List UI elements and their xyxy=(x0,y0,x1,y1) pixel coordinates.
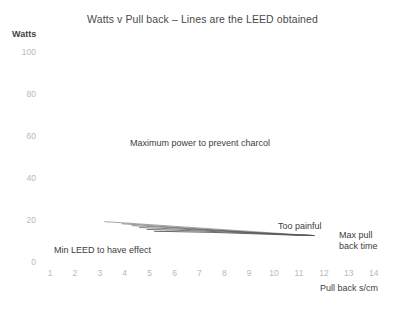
max-pull-back-note-line2: back time xyxy=(339,241,378,252)
plot-area xyxy=(0,0,405,310)
max-pull-back-note-line1: Max pull xyxy=(339,230,373,241)
too-painful-note: Too painful xyxy=(278,221,322,232)
min-leed-note: Min LEED to have effect xyxy=(54,245,151,256)
chart-screenshot: Watts v Pull back – Lines are the LEED o… xyxy=(0,0,405,310)
max-power-note: Maximum power to prevent charcol xyxy=(130,138,270,149)
